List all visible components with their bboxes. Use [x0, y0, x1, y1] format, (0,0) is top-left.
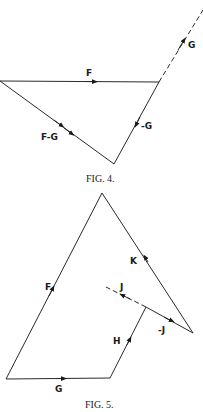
label-F-minus-G: F-G — [41, 132, 58, 142]
label-G: G — [55, 384, 62, 394]
vector-F-line — [0, 81, 159, 82]
label-F: F — [86, 68, 92, 78]
vector-neg-J-arrow — [164, 317, 172, 321]
label-neg-G: -G — [141, 121, 152, 131]
vector-G-arrow — [178, 40, 184, 50]
vector-F-minus-G-arrow-1 — [54, 120, 62, 126]
label-G: G — [188, 40, 195, 50]
vector-J-arrow — [122, 295, 130, 299]
label-F: F — [45, 282, 51, 292]
vector-F-line — [6, 193, 102, 379]
figure-5 — [6, 193, 193, 379]
figure-4 — [0, 10, 203, 164]
vector-H-arrow — [127, 339, 130, 345]
vector-G-dashed-line — [159, 10, 203, 82]
label-J: J — [119, 282, 123, 292]
label-H: H — [113, 336, 121, 346]
figure-4-caption: FIG. 4. — [86, 173, 115, 184]
label-K: K — [130, 256, 138, 266]
vector-neg-G-arrow — [136, 117, 140, 125]
vector-K-line — [102, 193, 193, 333]
vector-F-minus-G-arrow-2 — [64, 128, 72, 134]
figure-5-caption: FIG. 5. — [85, 399, 114, 410]
vector-diagrams: F G -G F-G FIG. 4. F G H K J -J FIG. 5. — [0, 0, 203, 412]
label-neg-J: -J — [158, 325, 165, 335]
